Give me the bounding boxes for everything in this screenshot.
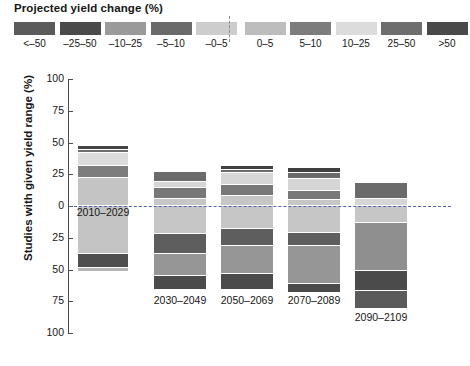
legend-swatch-5 [196,22,237,35]
bar-segment [78,166,128,178]
bar-segment [78,254,128,268]
chart-plot-area: Studies with given yield range (%) 10075… [0,62,459,366]
y-tick-label-3: 50 [30,136,64,148]
bar-category-label: 2030–2049 [142,294,218,306]
legend-swatch-1 [14,22,55,35]
bar-segment [154,234,206,254]
legend-swatch-7 [290,22,331,35]
y-tick-mark-2 [68,111,73,112]
legend-swatch-2 [60,22,101,35]
stacked-bar [288,168,340,293]
y-tick-label-9: 100 [30,326,64,338]
stacked-bar [154,172,206,290]
bar-segment [355,223,407,271]
y-tick-label-7: 50 [30,263,64,275]
legend-label-8: 10–25 [333,38,379,49]
y-tick-mark-7 [68,270,73,271]
bar-segment [355,271,407,291]
bar-segment [154,276,206,290]
bar-segment [221,246,273,274]
bar-category-label: 2010–2029 [66,206,140,218]
bar-segment [355,199,407,206]
bar-segment [154,199,206,206]
legend-label-6: 0–5 [242,38,288,49]
legend-label-5: –0–5 [194,38,240,49]
bar-segment [355,206,407,223]
bar-segment [221,173,273,185]
bar-segment [288,284,340,293]
y-tick-label-4: 25 [30,167,64,179]
bar-segment [288,179,340,191]
bar-segment [154,172,206,182]
bar-segment [355,183,407,199]
legend-swatch-4 [151,22,192,35]
legend-swatch-6 [245,22,286,35]
bar-segment [78,153,128,166]
y-tick-label-8: 75 [30,294,64,306]
bar-segment [154,254,206,276]
legend-label-2: –25–50 [57,38,103,49]
bar-segment [78,178,128,206]
legend-title: Projected yield change (%) [14,2,163,14]
stacked-bar [221,166,273,290]
y-tick-label-2: 75 [30,104,64,116]
y-tick-label-6: 25 [30,231,64,243]
y-tick-mark-8 [68,301,73,302]
bar-segment [355,291,407,309]
legend-swatch-8 [336,22,377,35]
bar-segment [221,185,273,196]
bar-segment [78,268,128,272]
bar-segment [221,206,273,229]
bar-segment [221,274,273,290]
y-tick-label-5: 0 [30,199,64,211]
bar-segment [154,206,206,234]
y-tick-mark-6 [68,238,73,239]
y-tick-mark-4 [68,174,73,175]
bar-segment [221,229,273,246]
legend-label-4: –5–10 [148,38,194,49]
bar-category-label: 2090–2109 [343,311,419,323]
legend-label-1: <–50 [12,38,58,49]
y-tick-label-1: 100 [30,72,64,84]
bar-segment [288,246,340,284]
legend: Projected yield change (%) <–50–25–50–10… [0,0,459,62]
y-tick-mark-1 [68,79,73,80]
legend-label-7: 5–10 [288,38,334,49]
legend-label-9: 25–50 [379,38,425,49]
bar-segment [288,206,340,233]
legend-label-10: >50 [424,38,470,49]
bar-segment [154,188,206,199]
legend-swatch-9 [381,22,422,35]
bar-segment [288,233,340,246]
y-tick-mark-9 [68,333,73,334]
legend-zero-divider [229,16,230,42]
bar-category-label: 2050–2069 [209,294,285,306]
legend-label-3: –10–25 [103,38,149,49]
bar-category-label: 2070–2089 [276,294,352,306]
bar-segment [221,196,273,206]
stacked-bar [355,183,407,309]
bar-segment [288,191,340,200]
legend-swatch-3 [105,22,146,35]
legend-swatch-10 [427,22,468,35]
y-tick-mark-3 [68,143,73,144]
